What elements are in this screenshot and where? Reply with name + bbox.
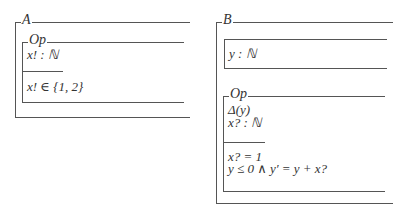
schema-a-top-border — [15, 22, 190, 23]
schema-a-left-border — [15, 22, 16, 117]
schema-a-op-divider — [22, 71, 63, 72]
schema-a-bottom-border — [15, 117, 190, 118]
schema-a-op-left-border — [22, 42, 23, 102]
schema-b-state-left-border — [224, 39, 225, 68]
schema-b-state-top-border — [224, 39, 387, 40]
schema-b-state-declaration: y : ℕ — [229, 47, 256, 61]
schema-b-op-predicate-2: y ≤ 0 ∧ y′ = y + x? — [228, 162, 327, 176]
schema-a-title: A — [21, 13, 32, 27]
schema-a-op-bottom-border — [22, 102, 184, 103]
schema-b-title: B — [222, 13, 233, 27]
schema-b-state-bottom-border — [224, 68, 387, 69]
schema-b-op-title: Op — [229, 87, 248, 101]
schema-a-op-declaration: x! : ℕ — [27, 48, 58, 62]
schema-b-op-declaration-input: x? : ℕ — [228, 116, 261, 130]
schema-b-op-divider — [223, 142, 265, 143]
schema-a-op-predicate: x! ∈ {1, 2} — [27, 80, 83, 94]
schema-a-op-title: Op — [28, 33, 47, 47]
schema-b-bottom-border — [216, 203, 393, 204]
schema-b-op-bottom-border — [223, 191, 385, 192]
schema-b-op-left-border — [223, 96, 224, 191]
schema-b-left-border — [216, 22, 217, 203]
schema-b-top-border — [216, 22, 393, 23]
